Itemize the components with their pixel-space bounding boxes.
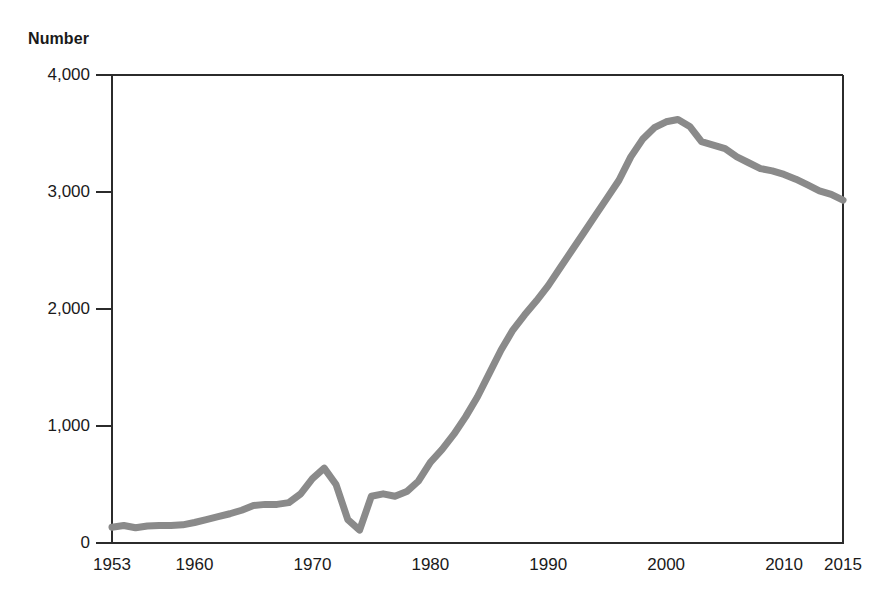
- line-chart-plot: 01,0002,0003,0004,000 195319601970198019…: [0, 0, 888, 610]
- x-tick-label: 1990: [529, 555, 567, 574]
- series-line-number: [112, 119, 843, 530]
- x-tick-label: 2000: [647, 555, 685, 574]
- y-tick-label: 0: [81, 533, 90, 552]
- x-tick-label: 2015: [824, 555, 862, 574]
- x-tick-label: 1970: [294, 555, 332, 574]
- x-tick-labels: 19531960197019801990200020102015: [93, 555, 862, 574]
- chart-container: Number 01,0002,0003,0004,000 19531960197…: [0, 0, 888, 610]
- y-tick-label: 4,000: [47, 65, 90, 84]
- plot-frame: [112, 75, 843, 543]
- y-tick-label: 3,000: [47, 182, 90, 201]
- x-tick-label: 1980: [411, 555, 449, 574]
- data-series-group: [112, 119, 843, 530]
- y-tick-label: 2,000: [47, 299, 90, 318]
- y-tick-label: 1,000: [47, 416, 90, 435]
- x-tick-label: 1953: [93, 555, 131, 574]
- x-tick-label: 2010: [765, 555, 803, 574]
- y-tick-labels: 01,0002,0003,0004,000: [47, 65, 90, 552]
- x-tick-label: 1960: [176, 555, 214, 574]
- y-tick-marks: [96, 75, 112, 543]
